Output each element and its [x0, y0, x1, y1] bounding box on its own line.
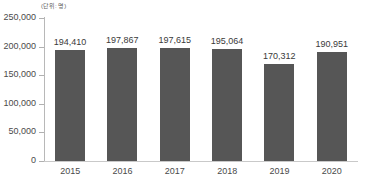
unit-label: (단위: 명) [41, 2, 66, 10]
bar-value-label: 190,951 [300, 39, 364, 49]
bar-slot: 194,410 [44, 18, 96, 161]
x-axis-line [44, 161, 358, 162]
bar-slot: 190,951 [306, 18, 358, 161]
bar[interactable] [55, 50, 85, 161]
x-axis-tick-label: 2017 [149, 166, 201, 176]
x-axis-tick-label: 2016 [96, 166, 148, 176]
bar-slot: 195,064 [201, 18, 253, 161]
bar[interactable] [212, 49, 242, 161]
y-axis-tick-label: 150,000 [0, 70, 36, 79]
plot-area: 194,410197,867197,615195,064170,312190,9… [44, 18, 358, 161]
bar[interactable] [317, 52, 347, 161]
bar-slot: 170,312 [253, 18, 305, 161]
y-axis-tick-label: 50,000 [0, 127, 36, 136]
bar-value-label: 170,312 [247, 51, 311, 61]
y-axis-tick-label: 100,000 [0, 99, 36, 108]
x-axis-tick-label: 2019 [253, 166, 305, 176]
x-axis-tick-label: 2020 [306, 166, 358, 176]
y-axis-tick-label: 250,000 [0, 13, 36, 22]
bar[interactable] [264, 64, 294, 161]
bar-slot: 197,867 [96, 18, 148, 161]
y-axis-tick-label: 200,000 [0, 42, 36, 51]
bar[interactable] [107, 48, 137, 161]
bar-value-label: 195,064 [195, 36, 259, 46]
bar[interactable] [160, 48, 190, 161]
bar-chart-figure: (단위: 명) 050,000100,000150,000200,000250,… [0, 0, 366, 185]
bar-slot: 197,615 [149, 18, 201, 161]
x-axis-tick-label: 2015 [44, 166, 96, 176]
y-axis-tick-label: 0 [0, 156, 36, 165]
x-axis-tick-label: 2018 [201, 166, 253, 176]
y-axis-tick-mark [39, 161, 44, 162]
